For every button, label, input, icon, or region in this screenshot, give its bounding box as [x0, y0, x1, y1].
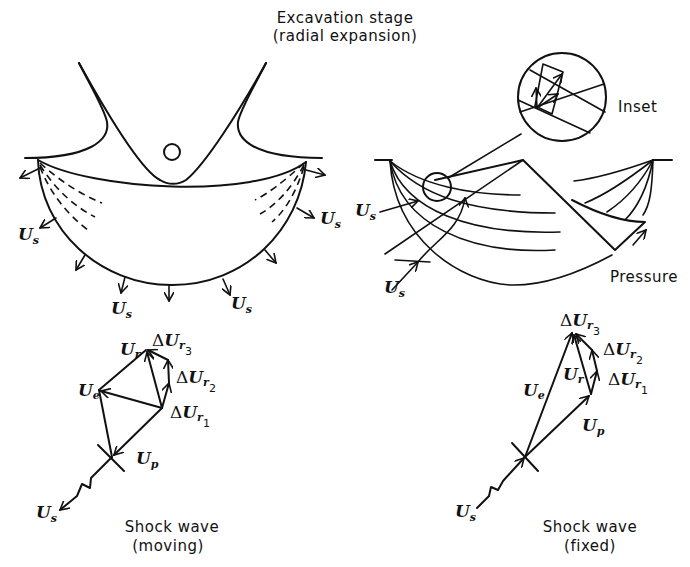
delta-ur2-vector: [168, 360, 169, 383]
us-shock-vector: [60, 457, 112, 510]
crater-upper-boundary: [38, 160, 306, 187]
shock-velocity-arrow: [306, 170, 325, 175]
ur-vector: [147, 352, 162, 408]
label-us-bottom-right: Us: [231, 293, 252, 316]
label-ue: Ue: [78, 380, 100, 402]
diagram-canvas: Excavation stage (radial expansion) Us: [0, 0, 690, 567]
us-path: [395, 260, 430, 262]
caption-moving-line2: (moving): [132, 537, 204, 555]
streamline: [40, 163, 102, 203]
pressure-label: Pressure: [610, 268, 678, 286]
us-shock-vector: [477, 458, 524, 508]
label-delta-ur1: ΔUr1: [170, 402, 210, 430]
label-us-left: Us: [18, 224, 39, 247]
caption-fixed-line1: Shock wave: [543, 518, 637, 536]
label-us-bottom-left: Us: [111, 298, 132, 321]
title-line2: (radial expansion): [273, 27, 418, 45]
left-crater: Us Us Us Us: [18, 63, 341, 321]
label-us: Us: [36, 502, 57, 525]
ejecta-left-flank: [25, 63, 107, 158]
shock-arc: [390, 161, 555, 213]
projectile: [164, 144, 180, 160]
title-line1: Excavation stage: [277, 9, 414, 27]
shock-velocity-arrow: [121, 277, 125, 293]
inset-label: Inset: [618, 98, 657, 116]
title: Excavation stage (radial expansion): [273, 9, 418, 45]
label-ur: Ur: [563, 364, 585, 386]
vector-diagram-fixed: ΔUr3 ΔUr2 ΔUr1 Ur Ue Up Us Shock wave (f…: [455, 310, 648, 555]
right-crater: Inset Pressure Us Us: [355, 53, 678, 300]
label-delta-ur1: ΔUr1: [608, 369, 648, 397]
label-delta-ur3: ΔUr3: [152, 330, 192, 358]
label-us: Us: [455, 501, 476, 524]
shock-velocity-arrow: [297, 208, 314, 218]
vector-diagram-moving: Ur Ue Up Us ΔUr3 ΔUr2 ΔUr1 Shock wave (m…: [36, 330, 219, 555]
label-up: Up: [136, 448, 159, 471]
ejecta-right-flank: [238, 63, 322, 158]
inset-vector: [536, 88, 537, 108]
label-delta-ur2: ΔUr2: [176, 367, 216, 395]
label-us-upper: Us: [355, 200, 376, 223]
delta-ur1-vector: [591, 371, 597, 394]
streamline: [260, 165, 304, 214]
shock-velocity-arrow: [76, 255, 85, 270]
up-vector: [525, 396, 589, 457]
delta-ur3-vector: [148, 350, 168, 360]
delta-ur2-vector: [592, 350, 597, 371]
label-delta-ur3: ΔUr3: [560, 310, 600, 338]
label-ur: Ur: [120, 339, 142, 361]
label-us-right: Us: [320, 208, 341, 231]
shock-arc: [585, 160, 653, 203]
caption-fixed-line2: (fixed): [564, 537, 616, 555]
ue-vector: [101, 391, 162, 408]
label-up: Up: [582, 415, 605, 438]
caption-moving-line1: Shock wave: [125, 518, 219, 536]
shock-velocity-arrow: [40, 218, 56, 228]
inset-circle: [518, 53, 606, 141]
shock-velocity-arrow: [20, 168, 40, 178]
shock-velocity-arrow: [223, 279, 230, 295]
inset-leader-line: [448, 134, 521, 178]
inset-detail: [518, 64, 605, 133]
label-ue: Ue: [523, 380, 545, 402]
delta-ur1-vector: [162, 383, 169, 408]
shock-velocity-arrow: [265, 250, 276, 263]
label-delta-ur2: ΔUr2: [603, 339, 643, 367]
